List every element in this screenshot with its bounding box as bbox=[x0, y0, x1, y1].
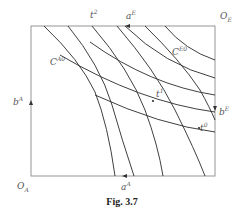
point-t1-dot bbox=[152, 100, 154, 102]
curves-A-family bbox=[44, 26, 215, 176]
label-origin-E: OE bbox=[220, 12, 232, 23]
label-b-E: bE bbox=[219, 106, 229, 117]
curve-A1 bbox=[68, 26, 134, 176]
curve-E4 bbox=[95, 95, 215, 132]
label-t1: t1 bbox=[156, 88, 163, 99]
label-a-A: aA bbox=[121, 181, 131, 192]
figure-caption: Fig. 3.7 bbox=[0, 196, 244, 207]
label-t2: t2 bbox=[90, 9, 97, 20]
label-a-E: aE bbox=[126, 10, 136, 21]
arrow-b-E-icon bbox=[213, 106, 217, 111]
curve-E3 bbox=[60, 55, 215, 112]
curve-A4 bbox=[145, 26, 215, 120]
arrow-b-A-icon bbox=[29, 100, 33, 105]
curve-A0 bbox=[44, 26, 115, 176]
label-C-E0: CE0 bbox=[172, 46, 187, 57]
label-b-A: bA bbox=[13, 96, 23, 107]
label-C-A0: CA0 bbox=[50, 56, 65, 67]
arrow-a-E-icon bbox=[125, 24, 130, 28]
arrow-a-A-icon bbox=[122, 174, 127, 178]
curve-E2 bbox=[90, 42, 215, 95]
label-t0: t0 bbox=[200, 122, 207, 133]
curve-A3 bbox=[117, 26, 205, 176]
label-origin-A: OA bbox=[17, 182, 29, 193]
edgeworth-box-frame bbox=[31, 26, 215, 176]
